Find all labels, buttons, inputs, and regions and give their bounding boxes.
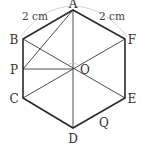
hexagon-diagram: 2 cm 2 cm A B F P O C E Q D xyxy=(0,0,141,149)
label-P: P xyxy=(10,63,18,77)
label-O: O xyxy=(80,63,90,77)
label-Q: Q xyxy=(99,116,109,130)
dimension-label-left: 2 cm xyxy=(22,10,48,22)
label-D: D xyxy=(68,132,78,146)
label-A: A xyxy=(68,0,78,11)
label-F: F xyxy=(128,33,136,47)
dimension-label-right: 2 cm xyxy=(99,10,125,22)
label-C: C xyxy=(9,92,18,106)
label-E: E xyxy=(128,92,137,106)
label-B: B xyxy=(10,33,19,47)
